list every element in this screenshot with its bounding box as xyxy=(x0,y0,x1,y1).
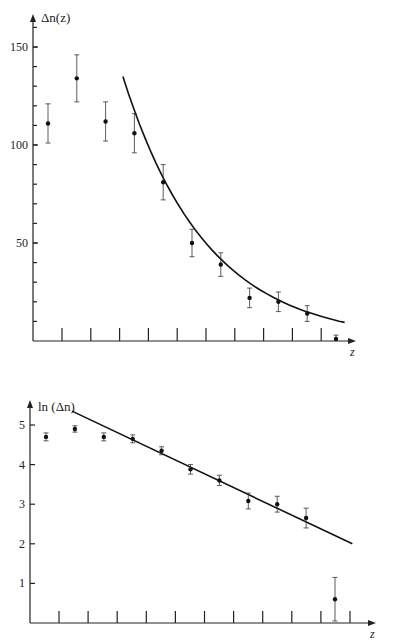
data-point xyxy=(159,449,163,453)
data-point xyxy=(188,467,192,471)
y-tick-label: 150 xyxy=(10,40,28,54)
figure: Δn(z)z50100150 ln (Δn)z12345 xyxy=(0,0,396,643)
x-axis-label: z xyxy=(369,627,375,641)
data-point xyxy=(276,300,280,304)
fit-curve xyxy=(123,76,345,322)
y-axis-arrow xyxy=(27,400,33,408)
data-point xyxy=(247,296,251,300)
y-axis-label: Δn(z) xyxy=(41,10,70,25)
fit-line xyxy=(72,411,352,544)
data-point xyxy=(190,241,194,245)
data-point xyxy=(333,597,337,601)
x-axis-arrow xyxy=(368,620,376,626)
x-axis-label: z xyxy=(349,345,355,359)
data-point xyxy=(131,437,135,441)
y-tick-label: 3 xyxy=(19,497,25,511)
data-point xyxy=(102,435,106,439)
data-point xyxy=(275,502,279,506)
data-point xyxy=(246,499,250,503)
data-point xyxy=(161,180,165,184)
y-axis-arrow xyxy=(30,14,36,22)
data-point xyxy=(132,131,136,135)
y-tick-label: 5 xyxy=(19,418,25,432)
bottom-chart: ln (Δn)z12345 xyxy=(19,399,376,641)
y-tick-label: 2 xyxy=(19,537,25,551)
y-tick-label: 100 xyxy=(10,138,28,152)
data-point xyxy=(334,337,338,341)
data-point xyxy=(46,121,50,125)
x-axis-arrow xyxy=(348,338,356,344)
y-axis-label: ln (Δn) xyxy=(38,399,75,414)
y-tick-label: 4 xyxy=(19,458,25,472)
data-point xyxy=(75,76,79,80)
data-point xyxy=(219,262,223,266)
y-tick-label: 50 xyxy=(16,236,28,250)
data-point xyxy=(103,119,107,123)
top-chart: Δn(z)z50100150 xyxy=(10,10,356,359)
data-point xyxy=(44,435,48,439)
y-tick-label: 1 xyxy=(19,576,25,590)
data-point xyxy=(305,311,309,315)
data-point xyxy=(217,478,221,482)
data-point xyxy=(304,516,308,520)
data-point xyxy=(73,427,77,431)
